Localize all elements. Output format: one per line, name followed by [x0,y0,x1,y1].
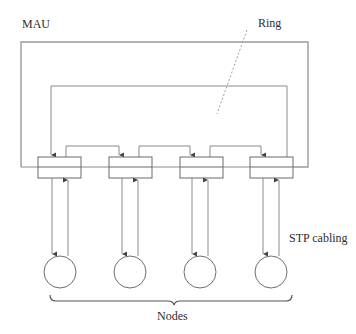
stp-cable-2 [122,178,138,256]
ring-bridge-3-4 [210,146,261,157]
stp-cable-4 [263,178,279,256]
stp-cable-1 [52,178,68,256]
stp-cabling-label: STP cabling [289,231,348,245]
port-1 [38,157,81,178]
port-4 [250,157,293,178]
ring-label: Ring [258,16,281,30]
stp-cable-3 [192,178,208,256]
mau-label: MAU [22,17,50,31]
port-3 [180,157,223,178]
mau-enclosure [21,42,308,167]
nodes-label: Nodes [157,309,188,323]
port-2 [109,157,152,178]
node-3 [184,256,216,288]
ring-bridge-1-2 [66,146,119,157]
ring-bridge-2-3 [139,146,190,157]
node-4 [255,256,287,288]
mau-ring-diagram: MAU Ring S [0,0,356,334]
node-2 [114,256,146,288]
node-1 [44,256,76,288]
nodes-brace [50,295,292,305]
